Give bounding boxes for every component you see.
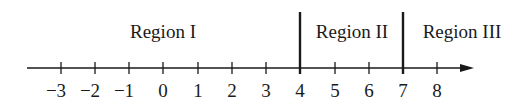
tick-label: −3 — [46, 80, 66, 101]
arrow-head-icon — [460, 64, 474, 72]
number-line-diagram: Region I Region II Region III −3 −2 −1 0… — [0, 0, 527, 107]
tick-label: −2 — [80, 80, 100, 101]
tick-label: 7 — [398, 80, 408, 101]
region-label-3: Region III — [423, 21, 502, 42]
tick-label: −1 — [114, 80, 134, 101]
tick-label: 5 — [330, 80, 340, 101]
tick-label: 4 — [295, 80, 305, 101]
region-label-1: Region I — [130, 21, 196, 42]
tick-label: 1 — [193, 80, 203, 101]
region-label-2: Region II — [316, 21, 388, 42]
tick-label: 2 — [227, 80, 237, 101]
tick-label: 3 — [261, 80, 271, 101]
tick-label: 0 — [158, 80, 168, 101]
tick-label: 8 — [432, 80, 442, 101]
tick-label: 6 — [364, 80, 374, 101]
tick-labels: −3 −2 −1 0 1 2 3 4 5 6 7 8 — [46, 80, 442, 101]
